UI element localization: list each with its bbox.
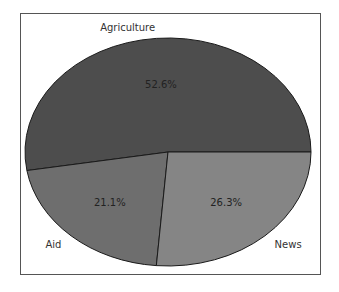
pie-slice-agriculture [25,38,311,171]
slice-percent-aid: 21.1% [94,197,126,208]
slice-label-aid: Aid [45,239,61,250]
pie-chart: Agriculture52.6%Aid21.1%News26.3% [0,0,339,292]
slice-percent-agriculture: 52.6% [145,79,177,90]
slice-label-agriculture: Agriculture [100,22,155,33]
slice-label-news: News [275,239,302,250]
slice-percent-news: 26.3% [210,197,242,208]
